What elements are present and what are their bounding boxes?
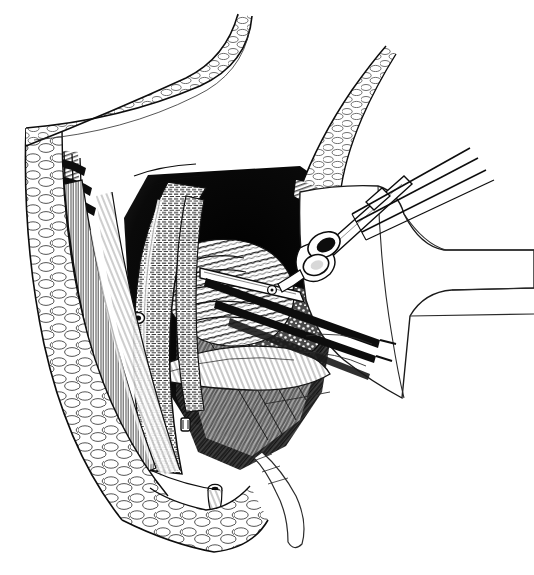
surgical-illustration-canvas [0,0,534,575]
hinge-pin-icon [268,286,277,295]
region-vessel-stump-clip [181,418,190,431]
illustration-figure [0,0,534,575]
